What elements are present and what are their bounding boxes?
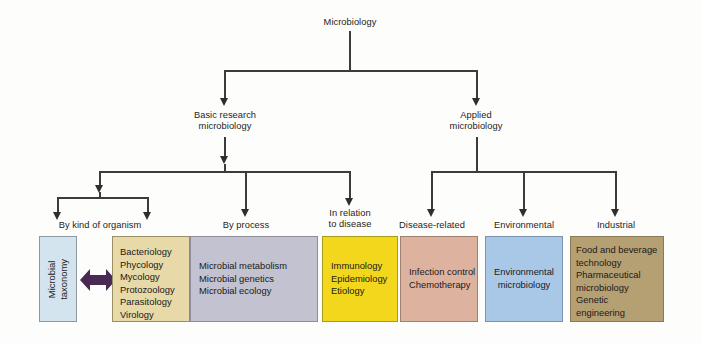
- connector-basic-bus: [99, 171, 349, 173]
- connector-disease-related: [431, 171, 433, 211]
- connector-in-relation: [349, 171, 351, 200]
- arrowhead-disease-related: [427, 209, 435, 217]
- box-environmental-text: Environmental microbiology: [494, 266, 554, 291]
- arrowhead-industrial: [611, 209, 619, 217]
- arrowhead-microbial-taxonomy: [53, 212, 61, 220]
- node-applied-microbiology: Applied microbiology: [421, 110, 531, 133]
- box-environmental[interactable]: Environmental microbiology: [485, 236, 563, 322]
- connector-root-bus: [224, 70, 476, 72]
- box-microbial-taxonomy[interactable]: Microbial taxonomy: [39, 236, 77, 322]
- arrowhead-basic-stem: [220, 156, 228, 164]
- connector-applied-stem: [476, 137, 478, 171]
- double-arrow-icon: [80, 262, 116, 298]
- connector-by-process: [245, 171, 247, 211]
- box-microbial-taxonomy-text: Microbial taxonomy: [46, 259, 71, 300]
- box-kind-of-organism[interactable]: Bacteriology Phycology Mycology Protozoo…: [112, 236, 190, 322]
- box-disease-related-text: Infection control Chemotherapy: [401, 266, 475, 291]
- box-by-process[interactable]: Microbial metabolism Microbial genetics …: [190, 236, 318, 322]
- node-basic-research-microbiology: Basic research microbiology: [170, 110, 280, 133]
- connector-industrial: [615, 171, 617, 211]
- node-microbiology: Microbiology: [300, 17, 400, 28]
- connector-root-right: [476, 70, 478, 100]
- label-in-relation-to-disease: In relation to disease: [308, 208, 392, 231]
- box-in-relation-to-disease-text: Immunology Epidemiology Etiology: [323, 260, 387, 298]
- label-environmental: Environmental: [481, 220, 567, 231]
- label-industrial: Industrial: [578, 220, 654, 231]
- diagram-canvas: Microbiology Basic research microbiology…: [0, 0, 702, 344]
- connector-root-stem: [349, 31, 351, 71]
- box-kind-of-organism-text: Bacteriology Phycology Mycology Protozoo…: [120, 246, 175, 320]
- label-by-process: By process: [200, 220, 292, 231]
- box-by-process-text: Microbial metabolism Microbial genetics …: [191, 260, 287, 298]
- arrowhead-by-process: [241, 209, 249, 217]
- connector-environmental: [523, 171, 525, 211]
- arrowhead-basic-research: [220, 98, 228, 106]
- label-disease-related: Disease-related: [388, 220, 476, 231]
- connector-kind-subbus: [57, 197, 147, 199]
- arrowhead-applied: [472, 98, 480, 106]
- box-in-relation-to-disease[interactable]: Immunology Epidemiology Etiology: [322, 236, 398, 322]
- label-by-kind-of-organism: By kind of organism: [40, 220, 160, 231]
- arrowhead-in-relation: [345, 198, 353, 206]
- arrowhead-organism-list: [143, 212, 151, 220]
- connector-root-left: [224, 70, 226, 100]
- box-industrial-text: Food and beverage technology Pharmaceuti…: [576, 244, 657, 318]
- box-industrial[interactable]: Food and beverage technology Pharmaceuti…: [570, 236, 664, 322]
- box-disease-related[interactable]: Infection control Chemotherapy: [400, 236, 478, 322]
- arrowhead-environmental: [519, 209, 527, 217]
